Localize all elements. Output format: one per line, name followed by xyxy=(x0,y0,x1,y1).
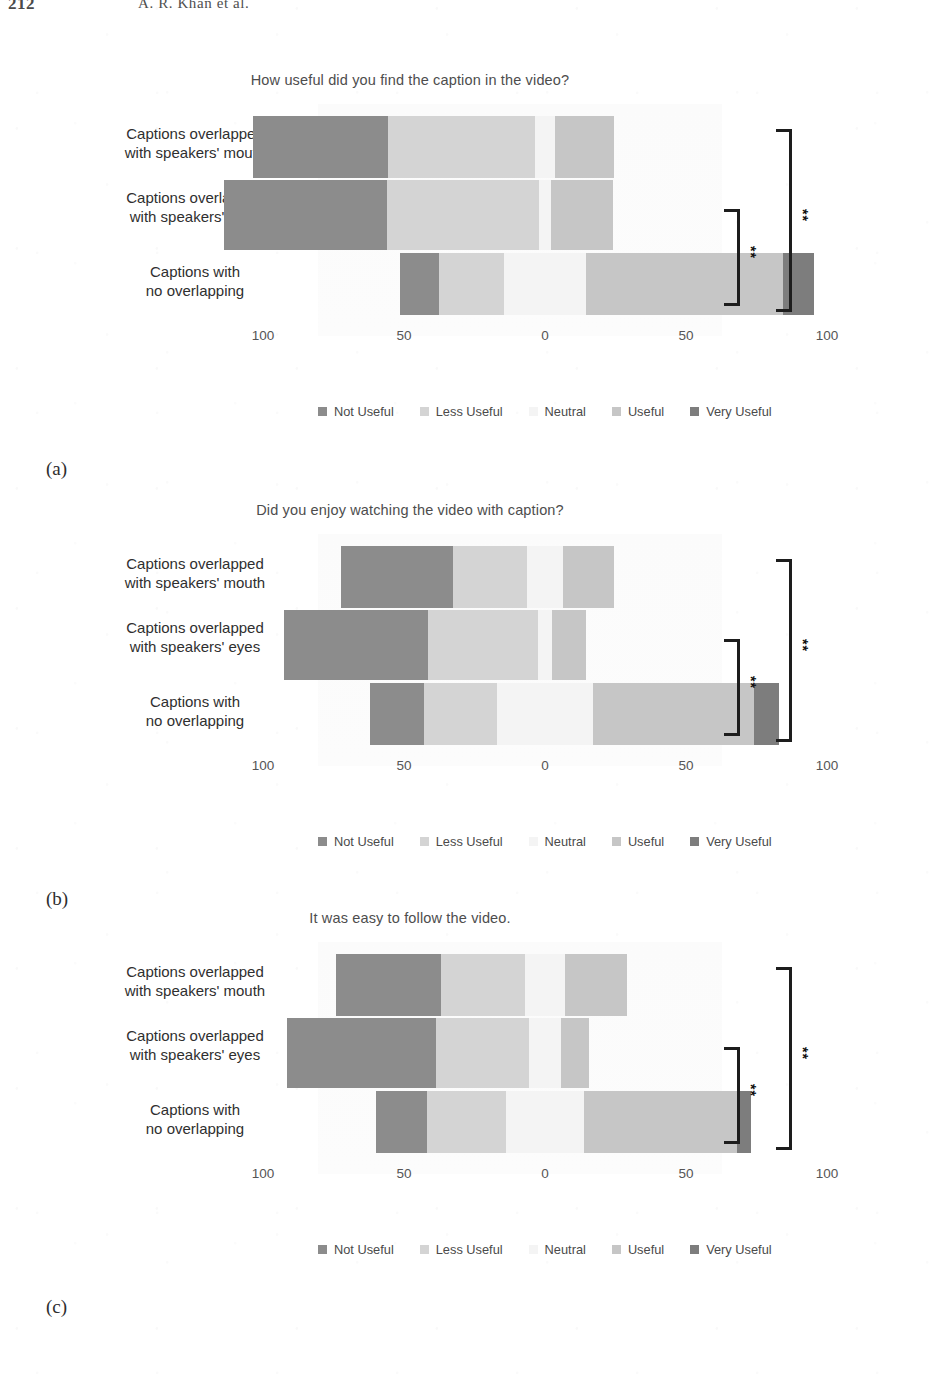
legend-item[interactable]: Less Useful xyxy=(420,1242,503,1257)
legend-label: Less Useful xyxy=(436,834,503,849)
legend-swatch-icon xyxy=(529,837,538,846)
legend-item[interactable]: Neutral xyxy=(529,834,586,849)
chart-title: It was easy to follow the video. xyxy=(100,910,720,926)
bar-segment-neutral xyxy=(538,610,552,680)
bar-segment-not-useful xyxy=(253,116,388,178)
legend-label: Very Useful xyxy=(706,1242,771,1257)
chart-panel-c: (c)It was easy to follow the video.Capti… xyxy=(0,878,938,1308)
bar-segment-not-useful xyxy=(284,610,428,680)
bar-segment-neutral xyxy=(535,116,555,178)
legend-label: Neutral xyxy=(545,1242,586,1257)
chart-legend: Not UsefulLess UsefulNeutralUsefulVery U… xyxy=(318,1242,798,1257)
axis-tick-label: 50 xyxy=(662,758,710,773)
legend-swatch-icon xyxy=(529,1245,538,1254)
legend-item[interactable]: Not Useful xyxy=(318,404,394,419)
axis-tick-label: 100 xyxy=(803,758,851,773)
legend-item[interactable]: Useful xyxy=(612,1242,664,1257)
bracket-arm-top xyxy=(724,1047,740,1050)
bracket-arm-bottom xyxy=(724,733,740,736)
legend-label: Not Useful xyxy=(334,404,394,419)
legend-swatch-icon xyxy=(318,407,327,416)
legend-label: Less Useful xyxy=(436,404,503,419)
bar-row xyxy=(0,116,938,178)
bar-row xyxy=(0,683,938,745)
bar-segment-useful xyxy=(586,253,783,315)
running-head-authors: A. R. Khan et al. xyxy=(138,0,249,12)
bar-segment-less-useful xyxy=(388,116,535,178)
axis-tick-label: 50 xyxy=(380,328,428,343)
legend-item[interactable]: Very Useful xyxy=(690,1242,771,1257)
significance-mark-inner: ** xyxy=(744,246,758,259)
significance-bracket-outer xyxy=(776,967,793,1150)
chart-panel-a: (a)How useful did you find the caption i… xyxy=(0,40,938,470)
axis-tick-label: 100 xyxy=(803,328,851,343)
bar-segment-useful xyxy=(561,1018,589,1088)
bracket-arm-top xyxy=(776,129,792,132)
legend-item[interactable]: Less Useful xyxy=(420,404,503,419)
axis-tick-label: 0 xyxy=(521,758,569,773)
legend-swatch-icon xyxy=(318,837,327,846)
legend-item[interactable]: Very Useful xyxy=(690,834,771,849)
axis-tick-label: 0 xyxy=(521,1166,569,1181)
significance-bracket-inner xyxy=(724,209,741,306)
legend-label: Useful xyxy=(628,834,664,849)
bracket-spine xyxy=(789,129,792,312)
bracket-spine xyxy=(789,559,792,742)
axis-tick-label: 50 xyxy=(380,1166,428,1181)
axis-tick-label: 50 xyxy=(662,328,710,343)
axis-tick-label: 100 xyxy=(239,328,287,343)
bar-segment-neutral xyxy=(525,954,564,1016)
axis-tick-label: 100 xyxy=(803,1166,851,1181)
bracket-arm-bottom xyxy=(776,309,792,312)
axis-tick-label: 100 xyxy=(239,1166,287,1181)
bar-segment-less-useful xyxy=(436,1018,529,1088)
bar-segment-less-useful xyxy=(439,253,504,315)
legend-item[interactable]: Useful xyxy=(612,404,664,419)
legend-item[interactable]: Useful xyxy=(612,834,664,849)
chart-legend: Not UsefulLess UsefulNeutralUsefulVery U… xyxy=(318,404,798,419)
significance-mark-outer: ** xyxy=(796,1047,810,1060)
bar-segment-not-useful xyxy=(224,180,388,250)
significance-bracket-inner xyxy=(724,639,741,736)
bracket-spine xyxy=(789,967,792,1150)
legend-swatch-icon xyxy=(612,407,621,416)
legend-item[interactable]: Less Useful xyxy=(420,834,503,849)
axis-tick-label: 0 xyxy=(521,328,569,343)
legend-item[interactable]: Not Useful xyxy=(318,1242,394,1257)
legend-item[interactable]: Neutral xyxy=(529,1242,586,1257)
bar-segment-less-useful xyxy=(428,610,538,680)
bar-segment-neutral xyxy=(529,1018,560,1088)
bar-segment-neutral xyxy=(506,1091,585,1153)
bracket-arm-top xyxy=(724,209,740,212)
legend-swatch-icon xyxy=(420,837,429,846)
significance-mark-outer: ** xyxy=(796,639,810,652)
bracket-spine xyxy=(737,1047,740,1144)
significance-bracket-outer xyxy=(776,559,793,742)
bracket-arm-top xyxy=(724,639,740,642)
bar-segment-neutral xyxy=(497,683,593,745)
bracket-arm-bottom xyxy=(776,1147,792,1150)
bar-segment-not-useful xyxy=(287,1018,436,1088)
bar-row xyxy=(0,546,938,608)
axis-tick-label: 50 xyxy=(380,758,428,773)
bar-segment-useful xyxy=(551,180,613,250)
legend-swatch-icon xyxy=(529,407,538,416)
bar-segment-useful xyxy=(563,546,614,608)
legend-swatch-icon xyxy=(690,837,699,846)
bar-segment-less-useful xyxy=(441,954,526,1016)
legend-item[interactable]: Not Useful xyxy=(318,834,394,849)
legend-swatch-icon xyxy=(420,1245,429,1254)
legend-swatch-icon xyxy=(420,407,429,416)
legend-label: Very Useful xyxy=(706,404,771,419)
legend-label: Neutral xyxy=(545,834,586,849)
legend-swatch-icon xyxy=(318,1245,327,1254)
page-number: 212 xyxy=(8,0,35,14)
bar-segment-not-useful xyxy=(336,954,440,1016)
legend-item[interactable]: Neutral xyxy=(529,404,586,419)
running-head: 212 A. R. Khan et al. xyxy=(0,0,938,20)
axis-tick-label: 100 xyxy=(239,758,287,773)
bar-segment-less-useful xyxy=(453,546,526,608)
legend-label: Not Useful xyxy=(334,1242,394,1257)
bracket-arm-top xyxy=(776,967,792,970)
legend-item[interactable]: Very Useful xyxy=(690,404,771,419)
